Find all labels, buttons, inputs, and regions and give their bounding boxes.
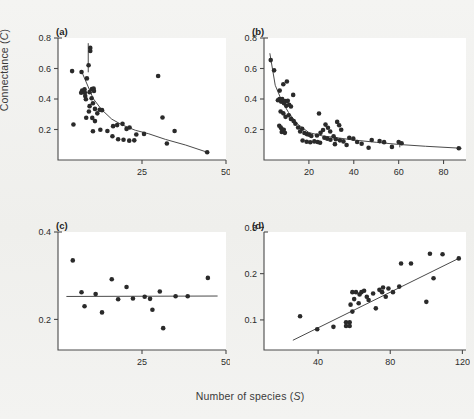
data-point xyxy=(205,150,210,155)
x-tick-label-a: 25 xyxy=(137,167,147,177)
y-tick-label-b: 0.6 xyxy=(244,64,257,74)
y-tick-label-a: 0.8 xyxy=(38,33,51,43)
data-point xyxy=(87,104,92,109)
y-tick-label-c: 0.4 xyxy=(38,227,51,237)
y-tick-label-d: 0.1 xyxy=(244,315,257,325)
data-point xyxy=(386,286,391,291)
data-point xyxy=(298,314,303,319)
data-point xyxy=(84,115,89,120)
data-point xyxy=(289,104,294,109)
data-point xyxy=(309,134,314,139)
data-point xyxy=(350,290,355,295)
data-point xyxy=(100,108,105,113)
data-point xyxy=(131,296,136,301)
data-point xyxy=(424,300,429,305)
data-point xyxy=(356,301,361,306)
data-point xyxy=(115,123,120,128)
panel-c-plot: 0.20.42550 xyxy=(30,222,230,377)
data-point xyxy=(165,141,170,146)
y-axis-title: Connectance (C) xyxy=(0,0,10,150)
data-point xyxy=(156,74,161,79)
data-point xyxy=(70,258,75,263)
data-point xyxy=(160,115,165,120)
data-point xyxy=(318,140,323,145)
data-point xyxy=(79,70,84,75)
data-point xyxy=(283,131,288,136)
data-point xyxy=(88,49,93,54)
data-point xyxy=(334,137,339,142)
data-point xyxy=(457,146,462,151)
data-point xyxy=(148,297,153,302)
data-point xyxy=(92,89,97,94)
data-point xyxy=(337,123,342,128)
data-point xyxy=(206,276,211,281)
panel-a-plot: 0.20.40.60.82550 xyxy=(30,28,230,188)
panel-b-label: (b) xyxy=(252,26,264,37)
data-point xyxy=(352,297,357,302)
data-point xyxy=(110,134,115,139)
data-point xyxy=(127,125,132,130)
panel-c-label: (c) xyxy=(56,220,68,231)
data-point xyxy=(333,142,338,147)
x-tick-label-d: 120 xyxy=(455,357,470,367)
figure-root: (a) 0.20.40.60.82550 (b) 0.20.40.60.8204… xyxy=(0,0,474,419)
x-tick-label-b: 80 xyxy=(439,167,449,177)
x-tick-label-d: 80 xyxy=(385,357,395,367)
data-point xyxy=(116,137,121,142)
data-point xyxy=(296,125,301,130)
data-point xyxy=(79,290,84,295)
data-point xyxy=(399,261,404,266)
data-point xyxy=(377,139,382,144)
data-point xyxy=(341,139,346,144)
data-point xyxy=(359,141,364,146)
x-tick-label-b: 40 xyxy=(349,167,359,177)
y-tick-label-a: 0.4 xyxy=(38,94,51,104)
data-point xyxy=(89,96,94,101)
data-point xyxy=(371,291,376,296)
data-point xyxy=(121,137,126,142)
data-point xyxy=(71,122,76,127)
data-point xyxy=(70,69,75,74)
panel-a: (a) 0.20.40.60.82550 xyxy=(30,28,230,188)
data-point xyxy=(272,68,277,73)
data-point xyxy=(105,129,110,134)
data-point xyxy=(344,143,349,148)
data-point xyxy=(440,252,445,257)
data-point xyxy=(93,107,98,112)
data-point xyxy=(381,285,386,290)
data-point xyxy=(277,88,282,93)
data-point xyxy=(161,326,166,331)
y-tick-label-b: 0.4 xyxy=(244,94,257,104)
data-point xyxy=(350,309,355,314)
panel-d: (d) 0.10.20.34080120 xyxy=(242,222,470,377)
data-point xyxy=(91,129,96,134)
data-point xyxy=(321,128,326,133)
data-point xyxy=(172,129,177,134)
y-tick-label-b: 0.2 xyxy=(244,125,257,135)
x-tick-label-d: 40 xyxy=(313,357,323,367)
data-point xyxy=(380,290,385,295)
data-point xyxy=(300,138,305,143)
data-point xyxy=(431,276,436,281)
data-point xyxy=(383,294,388,299)
data-point xyxy=(150,307,155,312)
x-axis-title: Number of species (S) xyxy=(120,390,380,402)
data-point xyxy=(86,63,91,68)
data-point xyxy=(300,126,305,131)
data-point xyxy=(291,93,296,98)
y-tick-label-d: 0.2 xyxy=(244,269,257,279)
data-point xyxy=(391,290,396,295)
data-point xyxy=(100,310,105,315)
data-point xyxy=(285,79,290,84)
data-point xyxy=(84,97,89,102)
data-point xyxy=(134,132,139,137)
x-tick-label-a: 50 xyxy=(221,167,230,177)
data-point xyxy=(111,124,116,129)
data-point xyxy=(82,304,87,309)
data-point xyxy=(347,324,352,329)
data-point xyxy=(369,138,374,143)
data-point xyxy=(374,306,379,311)
data-point xyxy=(158,289,163,294)
panel-d-label: (d) xyxy=(252,220,264,231)
data-point xyxy=(362,288,367,293)
